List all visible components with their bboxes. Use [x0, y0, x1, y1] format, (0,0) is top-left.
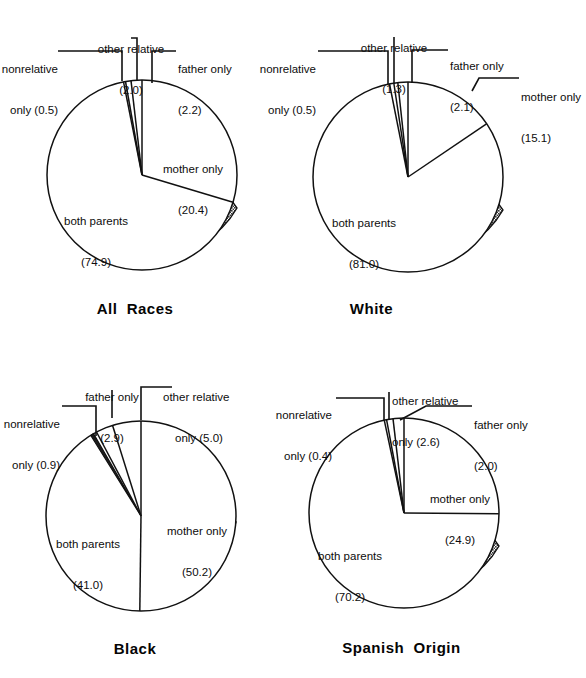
panel-white: nonrelative only (0.5) other relative (1…	[276, 0, 551, 330]
label-both-parents-line1: both parents	[316, 217, 412, 231]
label-father-only-line2: (2.1)	[450, 101, 516, 115]
label-both-parents-line1: both parents	[48, 215, 144, 229]
label-mother-only-spanish: mother only (24.9)	[414, 466, 506, 574]
label-father-only-line2: (2.2)	[178, 104, 244, 118]
label-mother-only-line2: (15.1)	[521, 132, 586, 146]
label-mother-only-line2: (50.2)	[152, 566, 242, 580]
label-both-parents-line1: both parents	[302, 550, 398, 564]
label-nonrelative-all-races: nonrelative only (0.5)	[0, 36, 58, 144]
label-other-relative-line2: (1.3)	[330, 83, 458, 97]
label-other-relative-black: other relative only (5.0)	[163, 364, 263, 472]
label-father-only-line1: father only	[178, 63, 264, 77]
label-nonrelative-line1: nonrelative	[0, 63, 58, 77]
label-mother-only-line1: mother only	[521, 91, 586, 105]
label-father-only-line2: (2.9)	[66, 432, 158, 446]
label-nonrelative-line1: nonrelative	[0, 418, 60, 432]
label-father-only-line1: father only	[66, 391, 158, 405]
label-other-relative-line1: other relative	[163, 391, 263, 405]
label-other-relative-line1: other relative	[330, 42, 458, 56]
panel-title-white: White	[234, 300, 509, 317]
panel-black: nonrelative only (0.9) father only (2.9)…	[0, 348, 270, 678]
label-both-parents-line2: (81.0)	[316, 258, 412, 272]
label-mother-only-line2: (24.9)	[414, 534, 506, 548]
label-mother-only-line1: mother only	[414, 493, 506, 507]
label-other-relative-all-races: other relative (2.0)	[66, 16, 196, 124]
panel-all-races: nonrelative only (0.5) other relative (2…	[0, 0, 270, 330]
label-nonrelative-line1: nonrelative	[268, 409, 332, 423]
label-father-only-line1: father only	[474, 419, 560, 433]
label-both-parents-spanish: both parents (70.2)	[302, 523, 398, 631]
label-both-parents-all-races: both parents (74.9)	[48, 188, 144, 296]
label-nonrelative-white: nonrelative only (0.5)	[254, 36, 316, 144]
label-nonrelative-line2: only (0.9)	[0, 459, 60, 473]
panel-title-black: Black	[0, 640, 270, 657]
label-mother-only-line2: (20.4)	[150, 204, 236, 218]
label-nonrelative-line2: only (0.4)	[268, 450, 332, 464]
label-nonrelative-line2: only (0.5)	[0, 104, 58, 118]
label-other-relative-line1: other relative	[66, 43, 196, 57]
label-both-parents-line1: both parents	[40, 538, 136, 552]
leader-nonrelative	[336, 398, 384, 421]
panel-title-spanish-origin: Spanish Origin	[264, 639, 539, 656]
label-father-only-black: father only (2.9)	[66, 364, 158, 472]
label-nonrelative-line2: only (0.5)	[254, 104, 316, 118]
label-mother-only-black: mother only (50.2)	[152, 498, 242, 606]
panel-spanish-origin: nonrelative only (0.4) other relative on…	[276, 348, 551, 678]
label-other-relative-white: other relative (1.3)	[330, 15, 458, 123]
label-mother-only-all-races: mother only (20.4)	[150, 136, 236, 244]
label-both-parents-line2: (74.9)	[48, 256, 144, 270]
label-nonrelative-line1: nonrelative	[254, 63, 316, 77]
label-both-parents-line2: (41.0)	[40, 579, 136, 593]
label-nonrelative-spanish: nonrelative only (0.4)	[268, 382, 332, 490]
label-mother-only-white: mother only (15.1)	[521, 64, 586, 172]
panel-title-all-races: All Races	[0, 300, 270, 317]
label-both-parents-line2: (70.2)	[302, 591, 398, 605]
label-nonrelative-black: nonrelative only (0.9)	[0, 391, 60, 499]
label-mother-only-line1: mother only	[150, 163, 236, 177]
label-other-relative-line2: only (5.0)	[175, 432, 263, 446]
label-both-parents-white: both parents (81.0)	[316, 190, 412, 298]
label-mother-only-line1: mother only	[152, 525, 242, 539]
label-other-relative-line2: (2.0)	[66, 84, 196, 98]
label-both-parents-black: both parents (41.0)	[40, 511, 136, 619]
label-father-only-all-races: father only (2.2)	[178, 36, 264, 144]
